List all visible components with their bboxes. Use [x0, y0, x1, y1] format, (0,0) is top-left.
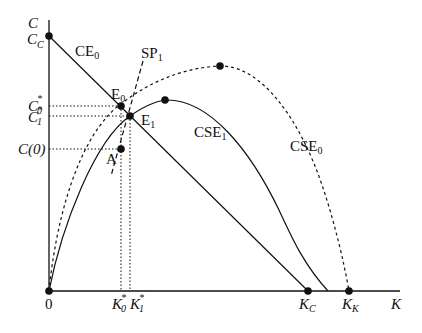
label-cc: CC: [27, 31, 44, 50]
label-c-zero: C(0): [18, 141, 46, 158]
label-e0: E0: [111, 86, 125, 104]
label-cse0: CSE0: [290, 138, 323, 156]
point-cse0-peak: [216, 62, 224, 70]
cse0-curve: [49, 66, 349, 291]
point-kk: [345, 287, 353, 295]
point-cc: [45, 32, 53, 40]
point-a: [117, 145, 125, 153]
label-sp1: SP1: [141, 45, 163, 63]
point-kc: [304, 287, 312, 295]
x-axis-label: K: [390, 296, 402, 312]
label-k0-star: K*0: [111, 292, 126, 314]
origin-label: 0: [45, 296, 53, 312]
label-e1: E1: [141, 112, 155, 130]
label-kc: KC: [298, 296, 316, 314]
label-a: A: [106, 151, 117, 167]
ce0-line: [49, 36, 308, 291]
cse1-curve: [49, 100, 328, 291]
label-k1-star: K*1: [129, 292, 144, 314]
label-ce0: CE0: [75, 43, 99, 61]
label-kk: KK: [341, 296, 360, 314]
point-cse1-peak: [161, 96, 169, 104]
point-origin: [45, 287, 53, 295]
y-axis-label: C: [28, 15, 39, 31]
point-e1: [126, 112, 134, 120]
phase-diagram: C K 0 CC C*0 C*1 C(0) K*0 K*1 KC KK: [0, 0, 422, 333]
